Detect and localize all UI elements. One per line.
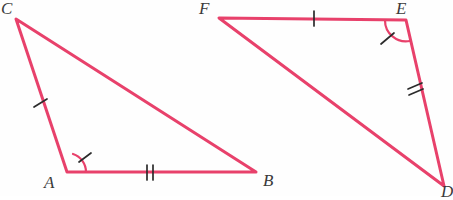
angle-e-tick — [381, 33, 394, 44]
vertex-label-c: C — [1, 0, 12, 17]
angle-a-arc — [73, 154, 86, 172]
triangle-def-outline — [219, 18, 444, 186]
vertex-label-a: A — [44, 174, 54, 191]
triangle-abc — [16, 19, 256, 180]
vertex-label-b: B — [263, 172, 273, 189]
angle-a-mark — [73, 153, 91, 172]
triangle-abc-outline — [16, 19, 256, 172]
triangle-def — [219, 11, 444, 186]
vertex-label-d: D — [441, 183, 453, 200]
side-ed-tick-2 — [409, 89, 423, 95]
vertex-label-e: E — [396, 0, 406, 17]
vertex-label-f: F — [199, 0, 209, 17]
